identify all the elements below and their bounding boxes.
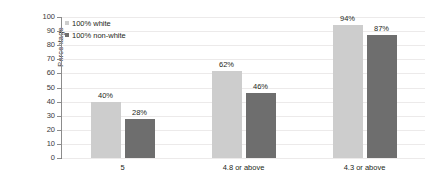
bar-value-label: 94% [327, 14, 369, 23]
bar-value-label: 46% [240, 82, 282, 91]
y-axis-tick-label: 20 [31, 126, 55, 134]
y-axis-tick-label-wrap: 40 [29, 98, 55, 106]
x-axis-category-label: 4.3 or above [304, 163, 425, 173]
y-axis-tick-label-wrap: 50 [29, 84, 55, 92]
y-axis-tick-label: 60 [31, 69, 55, 77]
y-axis-tick-label-wrap: 0 [29, 154, 55, 162]
y-axis-tick-label-wrap: 70 [29, 55, 55, 63]
legend-swatch-icon [65, 33, 69, 37]
bar-value-label: 40% [85, 91, 127, 100]
gridline [62, 158, 425, 159]
bar-value-label: 28% [119, 108, 161, 117]
legend-item: 100% non-white [65, 30, 126, 40]
bar [333, 25, 363, 158]
y-axis-tick-label-wrap: 10 [29, 140, 55, 148]
legend-label: 100% non-white [72, 31, 126, 40]
legend-label: 100% white [72, 19, 111, 28]
bar [246, 93, 276, 158]
y-axis-tick-label-wrap: 100 [29, 13, 55, 21]
y-axis-tick-label: 10 [31, 140, 55, 148]
x-axis-category-label: 5 [62, 163, 183, 173]
bar-value-label: 87% [361, 24, 403, 33]
bar [91, 102, 121, 158]
x-axis-category-label: 4.8 or above [183, 163, 304, 173]
y-axis-tick-label: 80 [31, 41, 55, 49]
bar [212, 71, 242, 158]
y-axis-tick-label: 30 [31, 112, 55, 120]
y-axis-tick-label-wrap: 20 [29, 126, 55, 134]
bar [367, 35, 397, 158]
y-axis-tick-label: 90 [31, 27, 55, 35]
bar [125, 119, 155, 158]
legend: 100% white100% non-white [65, 18, 126, 42]
y-axis-tick-label: 40 [31, 98, 55, 106]
y-axis-tick-label-wrap: 80 [29, 41, 55, 49]
y-axis-tick-label: 50 [31, 84, 55, 92]
y-axis-tick-label-wrap: 90 [29, 27, 55, 35]
y-axis-tick-label: 70 [31, 55, 55, 63]
bar-value-label: 62% [206, 60, 248, 69]
y-axis-tick-label: 100 [31, 13, 55, 21]
bar-chart: Percentage 0102030405060708090100 40%28%… [0, 0, 441, 183]
y-axis-tick-label: 0 [31, 154, 55, 162]
legend-swatch-icon [65, 21, 69, 25]
legend-item: 100% white [65, 18, 126, 28]
y-axis-tick-label-wrap: 30 [29, 112, 55, 120]
y-axis-tick-label-wrap: 60 [29, 69, 55, 77]
